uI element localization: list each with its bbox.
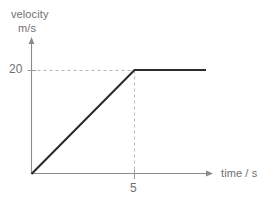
velocity-curve: [32, 70, 207, 174]
y-axis-label-quantity: velocity: [11, 8, 48, 20]
velocity-time-graph: velocity m/s 20 5 time / s: [0, 0, 278, 208]
y-axis-label-units: m/s: [18, 22, 36, 34]
y-axis-arrowhead: [29, 37, 35, 44]
x-axis-arrowhead: [206, 171, 213, 177]
x-tick-label-5: 5: [130, 182, 137, 194]
x-axis-label: time / s: [221, 167, 257, 179]
y-tick-label-20: 20: [9, 63, 23, 75]
